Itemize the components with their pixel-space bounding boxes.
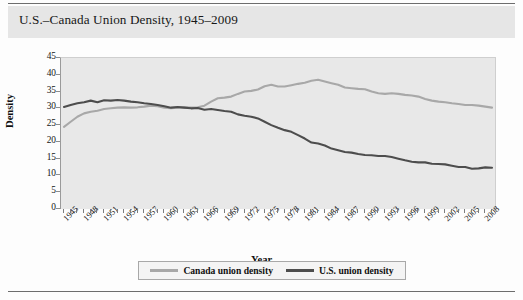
y-axis-tick [56,91,60,92]
x-axis-tick [237,209,238,213]
chart-area: 454035302520151050 Density 1945194819511… [8,40,515,290]
legend-label: U.S. union density [319,265,394,276]
x-axis-tick [90,209,91,213]
y-axis-tick [56,107,60,108]
x-axis-tick [217,209,218,213]
x-axis-tick [310,209,311,213]
y-axis-tick [56,208,60,209]
x-axis-tick [331,209,332,213]
x-axis-tick [458,209,459,213]
y-axis-tick [56,141,60,142]
y-axis-tick [56,74,60,75]
x-axis-tick [117,209,118,213]
x-axis-tick [351,209,352,213]
y-axis-tick-label: 35 [34,86,56,95]
x-axis-tick [210,209,211,213]
y-axis-tick-label: 20 [34,136,56,145]
x-axis-tick [157,209,158,213]
x-axis-tick [177,209,178,213]
x-axis-tick [491,209,492,213]
y-axis-tick [56,174,60,175]
x-axis-tick [96,209,97,213]
x-axis-tick [270,209,271,213]
y-axis-tick-label: 40 [34,69,56,78]
line-canada-union-density [64,80,492,127]
x-axis-tick [317,209,318,213]
y-axis-tick-label: 10 [34,169,56,178]
x-axis-tick [391,209,392,213]
x-axis-tick [277,209,278,213]
legend-item-us[interactable]: U.S. union density [286,265,394,276]
x-axis-tick [397,209,398,213]
bottom-divider [8,291,515,292]
x-axis-tick [250,209,251,213]
y-axis-tick [56,124,60,125]
y-axis-tick-label: 5 [34,186,56,195]
chart-legend: Canada union densityU.S. union density [138,261,406,280]
x-axis-tick [438,209,439,213]
x-axis-tick [170,209,171,213]
y-axis-tick-label: 25 [34,119,56,128]
legend-item-canada[interactable]: Canada union density [150,265,273,276]
line-us-union-density [64,100,492,169]
x-axis-tick [297,209,298,213]
x-axis-tick [190,209,191,213]
x-axis-tick [431,209,432,213]
x-axis-tick [377,209,378,213]
y-axis-tick-label: 45 [34,52,56,61]
x-axis-tick [110,209,111,213]
y-axis-tick [56,57,60,58]
legend-line-swatch [286,269,314,272]
y-axis-tick-label: 0 [34,203,56,212]
x-axis-tick [257,209,258,213]
page-title: U.S.–Canada Union Density, 1945–2009 [19,12,238,28]
x-axis-tick [137,209,138,213]
x-axis-tick [357,209,358,213]
y-axis-tick-label: 30 [34,102,56,111]
x-axis-tick [230,209,231,213]
x-axis-tick [197,209,198,213]
top-divider [8,3,515,4]
x-axis-tick [70,209,71,213]
y-axis-tick [56,158,60,159]
x-axis-tick [471,209,472,213]
legend-line-swatch [150,269,178,272]
x-axis-tick [337,209,338,213]
x-axis-tick [290,209,291,213]
x-axis-tick [130,209,131,213]
x-axis-tick [417,209,418,213]
x-axis-tick [478,209,479,213]
y-axis-tick [56,191,60,192]
y-axis-title: Density [4,94,15,128]
legend-label: Canada union density [183,265,273,276]
plot-region [60,57,496,209]
series-lines [61,58,495,209]
chart-page: U.S.–Canada Union Density, 1945–2009 454… [0,0,523,300]
x-axis-tick [451,209,452,213]
y-axis-labels: 454035302520151050 [30,40,56,240]
x-axis-tick [150,209,151,213]
x-axis-tick [411,209,412,213]
x-axis-tick [371,209,372,213]
y-axis-tick-label: 15 [34,153,56,162]
x-axis-tick [76,209,77,213]
